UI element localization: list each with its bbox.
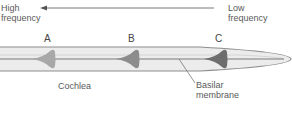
high-label-line1: High [1, 3, 41, 13]
high-frequency-label: High frequency [1, 3, 41, 23]
basilar-membrane-label: Basilar membrane [196, 80, 239, 100]
point-b-label: B [128, 33, 135, 44]
basilar-label-line1: Basilar [196, 80, 239, 90]
cochlea-label: Cochlea [58, 81, 91, 91]
low-label-line1: Low [228, 3, 268, 13]
high-label-line2: frequency [1, 13, 41, 23]
low-label-line2: frequency [228, 13, 268, 23]
frequency-arrow [40, 6, 214, 11]
basilar-label-line2: membrane [196, 90, 239, 100]
point-c-label: C [215, 33, 222, 44]
point-a-label: A [44, 33, 51, 44]
low-frequency-label: Low frequency [228, 3, 268, 23]
